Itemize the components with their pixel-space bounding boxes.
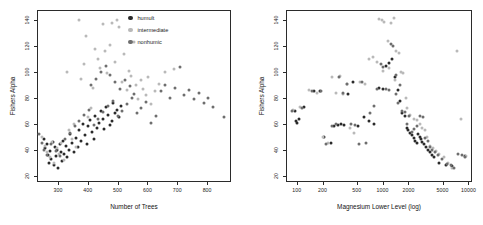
data-point-intermediate [331, 76, 334, 79]
legend-marker-intermediate-icon [128, 28, 133, 33]
data-point-intermediate [321, 135, 324, 138]
data-point-nonhumic [334, 122, 337, 125]
y-tick-mark [34, 124, 37, 125]
data-point-intermediate [150, 103, 153, 106]
data-point-intermediate [173, 68, 176, 71]
data-point-nonhumic [212, 105, 215, 108]
data-point-humult [391, 58, 394, 61]
data-point-nonhumic [350, 122, 353, 125]
data-point-nonhumic [376, 87, 379, 90]
data-point-nonhumic [54, 149, 57, 152]
data-point-nonhumic [449, 164, 452, 167]
legend-label-humult: humult [138, 15, 155, 21]
data-point-intermediate [147, 76, 150, 79]
data-point-nonhumic [341, 91, 344, 94]
data-point-intermediate [104, 50, 107, 53]
legend: humult intermediate nonhumic [128, 12, 168, 48]
data-point-humult [81, 122, 84, 125]
data-point-nonhumic [464, 156, 467, 159]
data-point-intermediate [94, 47, 97, 50]
data-point-intermediate [423, 129, 426, 132]
x-tick-label: 5000 [437, 187, 449, 193]
data-point-intermediate [113, 60, 116, 63]
data-point-humult [64, 144, 67, 147]
data-point-nonhumic [114, 81, 117, 84]
y-tick-mark [34, 46, 37, 47]
data-point-humult [101, 117, 104, 120]
legend-marker-humult-icon [128, 16, 133, 21]
data-point-nonhumic [45, 153, 48, 156]
data-point-nonhumic [145, 100, 148, 103]
data-point-intermediate [158, 82, 161, 85]
y-tick-mark [283, 20, 286, 21]
x-tick-mark [58, 182, 59, 185]
data-point-intermediate [349, 126, 352, 129]
data-point-nonhumic [90, 84, 93, 87]
y-tick-label: 20 [24, 173, 30, 179]
data-point-humult [107, 113, 110, 116]
legend-label-nonhumic: nonhumic [138, 39, 162, 45]
data-point-intermediate [137, 98, 140, 101]
y-tick-label: 140 [24, 16, 30, 25]
data-point-nonhumic [354, 124, 357, 127]
y-tick-mark [283, 46, 286, 47]
data-point-intermediate [142, 87, 145, 90]
legend-item-nonhumic: nonhumic [128, 36, 168, 48]
data-point-humult [78, 129, 81, 132]
x-axis-title-left: Number of Trees [110, 203, 158, 210]
data-point-nonhumic [445, 162, 448, 165]
data-point-intermediate [139, 78, 142, 81]
data-point-nonhumic [78, 120, 81, 123]
data-point-humult [89, 118, 92, 121]
x-tick-label: 300 [53, 187, 62, 193]
data-point-nonhumic [121, 109, 124, 112]
data-point-nonhumic [361, 81, 364, 84]
data-point-humult [63, 152, 66, 155]
x-axis-title-right: Magnesium Lower Level (log) [337, 203, 421, 210]
y-tick-label: 40 [24, 147, 30, 153]
data-point-nonhumic [59, 155, 62, 158]
y-tick-label: 60 [273, 121, 279, 127]
two-panel-scatter-figure: 20406080100120140300400500600700800 humu… [0, 0, 483, 225]
x-tick-label: 100 [292, 187, 301, 193]
data-point-intermediate [130, 74, 133, 77]
data-point-nonhumic [440, 157, 443, 160]
y-tick-mark [34, 72, 37, 73]
data-point-nonhumic [436, 153, 439, 156]
data-point-intermediate [92, 86, 95, 89]
data-point-nonhumic [178, 65, 181, 68]
data-point-nonhumic [118, 87, 121, 90]
data-point-humult [96, 126, 99, 129]
x-tick-mark [468, 182, 469, 185]
data-point-nonhumic [83, 113, 86, 116]
y-tick-mark [34, 20, 37, 21]
data-point-nonhumic [49, 143, 52, 146]
data-point-intermediate [135, 84, 138, 87]
data-point-nonhumic [372, 104, 375, 107]
data-point-nonhumic [396, 102, 399, 105]
data-point-nonhumic [133, 93, 136, 96]
x-tick-label: 500 [352, 187, 361, 193]
data-point-intermediate [164, 71, 167, 74]
data-point-intermediate [111, 21, 114, 24]
data-point-intermediate [460, 117, 463, 120]
data-point-nonhumic [364, 142, 367, 145]
data-point-humult [98, 121, 101, 124]
data-point-humult [92, 138, 95, 141]
data-point-nonhumic [413, 127, 416, 130]
data-point-nonhumic [116, 115, 119, 118]
data-point-nonhumic [300, 107, 303, 110]
data-point-intermediate [65, 71, 68, 74]
data-point-nonhumic [111, 99, 114, 102]
data-point-nonhumic [43, 148, 46, 151]
data-point-nonhumic [408, 115, 411, 118]
legend-item-intermediate: intermediate [128, 24, 168, 36]
data-point-intermediate [353, 131, 356, 134]
data-point-nonhumic [109, 73, 112, 76]
data-point-humult [47, 161, 50, 164]
data-point-intermediate [127, 69, 130, 72]
data-point-nonhumic [330, 125, 333, 128]
data-point-intermediate [75, 146, 78, 149]
y-axis-title-left: Fishers Alpha [9, 77, 16, 116]
data-point-nonhumic [135, 112, 138, 115]
